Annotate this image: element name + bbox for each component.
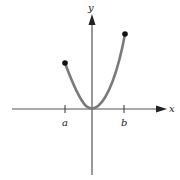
tick-label-a: a [62, 117, 68, 128]
function-curve [65, 34, 125, 109]
left-endpoint-dot [62, 60, 68, 66]
right-endpoint-dot [122, 31, 128, 37]
x-axis-label: x [169, 103, 175, 114]
tick-label-b: b [121, 117, 127, 128]
y-axis-label: y [87, 2, 94, 13]
y-axis-arrow-icon [89, 14, 96, 25]
graph-canvas: x y a b [0, 0, 180, 180]
x-axis-arrow-icon [156, 106, 167, 113]
